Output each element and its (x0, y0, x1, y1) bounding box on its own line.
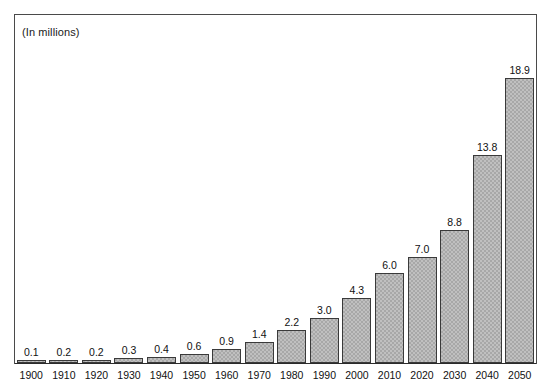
bar-group: 8.82030 (438, 0, 471, 389)
bar-value-label: 0.1 (24, 346, 39, 358)
bar-value-label: 8.8 (447, 216, 462, 228)
bar-value-label: 0.9 (219, 335, 234, 347)
bar-column (180, 0, 209, 389)
bar-value-label: 0.6 (187, 340, 202, 352)
bar-group: 4.32000 (341, 0, 374, 389)
bar-column (408, 0, 437, 389)
bars-layer: 0.119000.219100.219200.319300.419400.619… (0, 0, 552, 389)
bar-column (310, 0, 339, 389)
bar-group: 7.02020 (406, 0, 439, 389)
bar-group: 0.61950 (178, 0, 211, 389)
bar[interactable] (408, 257, 437, 363)
bar-column (114, 0, 143, 389)
bar-column (49, 0, 78, 389)
bar-value-label: 0.3 (122, 344, 137, 356)
x-axis-tick-label: 2000 (345, 369, 368, 381)
bar-column (277, 0, 306, 389)
x-axis-tick-label: 1920 (85, 369, 108, 381)
bar-chart: (In millions) 0.119000.219100.219200.319… (0, 0, 552, 389)
x-axis-tick-label: 1970 (248, 369, 271, 381)
bar[interactable] (82, 360, 111, 363)
bar-group: 0.11900 (15, 0, 48, 389)
x-axis-tick-label: 1960 (215, 369, 238, 381)
bar[interactable] (245, 342, 274, 363)
x-axis-tick-label: 1930 (117, 369, 140, 381)
bar[interactable] (114, 358, 143, 363)
bar-group: 0.21910 (48, 0, 81, 389)
bar-column (82, 0, 111, 389)
bar[interactable] (310, 318, 339, 363)
bar[interactable] (147, 357, 176, 363)
bar-group: 18.92050 (503, 0, 536, 389)
bar-group: 1.41970 (243, 0, 276, 389)
bar-column (342, 0, 371, 389)
bar-column (375, 0, 404, 389)
bar-value-label: 0.2 (89, 346, 104, 358)
bar-column (17, 0, 46, 389)
x-axis-tick-label: 2010 (378, 369, 401, 381)
bar[interactable] (212, 349, 241, 363)
bar-value-label: 0.4 (154, 343, 169, 355)
bar[interactable] (277, 330, 306, 363)
x-axis-tick-label: 2040 (475, 369, 498, 381)
bar-group: 13.82040 (471, 0, 504, 389)
x-axis-tick-label: 1940 (150, 369, 173, 381)
bar-value-label: 1.4 (252, 328, 267, 340)
bar[interactable] (473, 155, 502, 363)
bar-group: 6.02010 (373, 0, 406, 389)
bar-group: 0.91960 (210, 0, 243, 389)
bar-group: 3.01990 (308, 0, 341, 389)
bar-group: 0.21920 (80, 0, 113, 389)
bar[interactable] (49, 360, 78, 363)
bar-value-label: 3.0 (317, 304, 332, 316)
x-axis-tick-label: 2050 (508, 369, 531, 381)
bar-value-label: 2.2 (284, 316, 299, 328)
bar-column (212, 0, 241, 389)
bar[interactable] (180, 354, 209, 363)
x-axis-tick-label: 1900 (20, 369, 43, 381)
bar-column (147, 0, 176, 389)
x-axis-tick-label: 1990 (313, 369, 336, 381)
bar-group: 0.41940 (145, 0, 178, 389)
bar-group: 2.21980 (276, 0, 309, 389)
bar[interactable] (505, 78, 534, 363)
bar-column (505, 0, 534, 389)
bar-value-label: 0.2 (57, 346, 72, 358)
bar[interactable] (375, 273, 404, 363)
bar-value-label: 7.0 (415, 243, 430, 255)
bar-column (473, 0, 502, 389)
x-axis-tick-label: 1910 (52, 369, 75, 381)
bar-value-label: 13.8 (477, 141, 497, 153)
bar[interactable] (440, 230, 469, 363)
x-axis-tick-label: 1950 (182, 369, 205, 381)
bar-column (440, 0, 469, 389)
bar-value-label: 18.9 (510, 64, 530, 76)
x-axis-tick-label: 2020 (410, 369, 433, 381)
bar-group: 0.31930 (113, 0, 146, 389)
x-axis-tick-label: 2030 (443, 369, 466, 381)
bar[interactable] (17, 360, 46, 363)
bar[interactable] (342, 298, 371, 363)
x-axis-tick-label: 1980 (280, 369, 303, 381)
bar-value-label: 4.3 (350, 284, 365, 296)
bar-value-label: 6.0 (382, 259, 397, 271)
